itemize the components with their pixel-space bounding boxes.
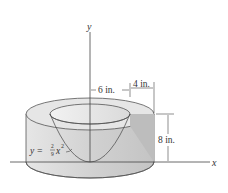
paraboloid-cylinder-diagram: y x 6 in. 4 in. 8 in. y = 2 9 x 2 [0,0,228,193]
equation-coef-num: 2 [51,143,54,149]
dim-8in-label: 8 in. [158,135,175,145]
dim-6in-label: 6 in. [98,85,115,95]
equation-lhs: y = [29,146,43,156]
x-axis-label: x [211,157,217,168]
dim-4in-label: 4 in. [133,79,150,89]
equation-exp: 2 [61,143,64,149]
equation-coef-den: 9 [51,151,54,157]
y-axis-label: y [86,21,92,32]
